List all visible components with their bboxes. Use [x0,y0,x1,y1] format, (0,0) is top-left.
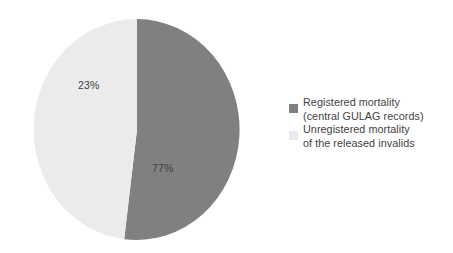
legend-swatch-unregistered-mortality-icon [289,131,298,140]
legend-label-registered-mortality-line1: Registered mortality [303,96,453,110]
pie-slice-registered-mortality[interactable] [124,19,239,240]
legend-item-registered-mortality[interactable]: Registered mortality (central GULAG reco… [289,96,453,123]
pie-slice-label-unregistered: 23% [78,79,99,91]
legend-label-unregistered-mortality-line2: of the released invalids [303,137,453,151]
pie-chart-figure: 23% 77% Registered mortality (central GU… [0,0,453,253]
legend-label-unregistered-mortality-line1: Unregistered mortality [303,123,453,137]
legend-swatch-registered-mortality-icon [289,104,298,113]
pie-chart-svg [34,19,240,240]
pie-chart-plot-area [34,19,240,240]
pie-slice-unregistered-mortality[interactable] [34,19,137,239]
legend-label-registered-mortality-line2: (central GULAG records) [303,110,453,124]
legend-item-unregistered-mortality[interactable]: Unregistered mortality of the released i… [289,123,453,150]
pie-slice-label-registered: 77% [152,162,173,174]
chart-legend: Registered mortality (central GULAG reco… [289,96,453,150]
